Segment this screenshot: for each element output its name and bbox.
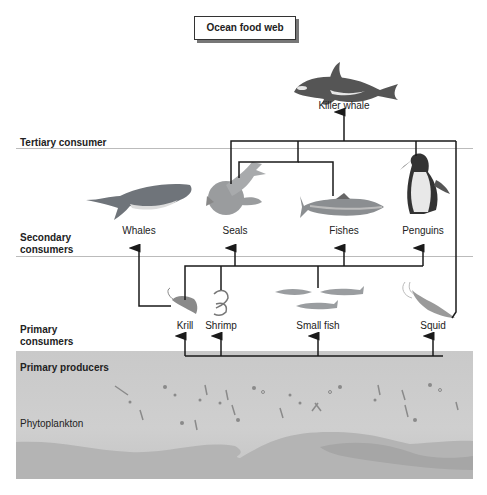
fishes-icon bbox=[300, 193, 384, 218]
label-penguins: Penguins bbox=[402, 225, 444, 236]
label-squid: Squid bbox=[420, 320, 446, 331]
squid-icon bbox=[403, 282, 455, 318]
label-whales: Whales bbox=[122, 225, 155, 236]
label-seals: Seals bbox=[222, 225, 247, 236]
label-shrimp: Shrimp bbox=[205, 320, 237, 331]
label-krill: Krill bbox=[177, 320, 194, 331]
label-small-fish: Small fish bbox=[296, 320, 339, 331]
label-killer-whale: Killer whale bbox=[318, 100, 369, 111]
label-phytoplankton: Phytoplankton bbox=[20, 418, 83, 429]
small-fish-icon bbox=[275, 286, 364, 309]
penguins-icon bbox=[400, 154, 450, 214]
phytoplankton-icon bbox=[115, 383, 458, 430]
seals-icon bbox=[206, 162, 266, 215]
krill-icon bbox=[168, 288, 197, 314]
whales-icon bbox=[86, 184, 192, 220]
label-fishes: Fishes bbox=[329, 225, 358, 236]
seabed-icon bbox=[16, 432, 473, 479]
killer-whale-icon bbox=[294, 62, 398, 105]
shrimp-icon bbox=[214, 291, 228, 316]
